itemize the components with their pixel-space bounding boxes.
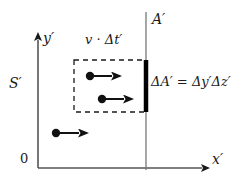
y-axis-label: y′ — [43, 31, 54, 45]
particle-3 — [52, 129, 79, 137]
x-axis-label: x′ — [212, 152, 223, 166]
length-label: v · Δt′ — [85, 33, 122, 46]
particle-2 — [98, 95, 124, 103]
dashed-volume-box — [74, 60, 146, 112]
frame-label: S′ — [9, 76, 22, 90]
plane-label: A′ — [152, 12, 165, 26]
physics-diagram: y′ x′ 0 S′ A′ v · Δt′ ΔA′ = Δy′Δz′ — [0, 0, 252, 183]
area-equation-label: ΔA′ = Δy′Δz′ — [151, 75, 231, 88]
origin-label: 0 — [20, 152, 28, 165]
particle-1 — [86, 72, 112, 80]
